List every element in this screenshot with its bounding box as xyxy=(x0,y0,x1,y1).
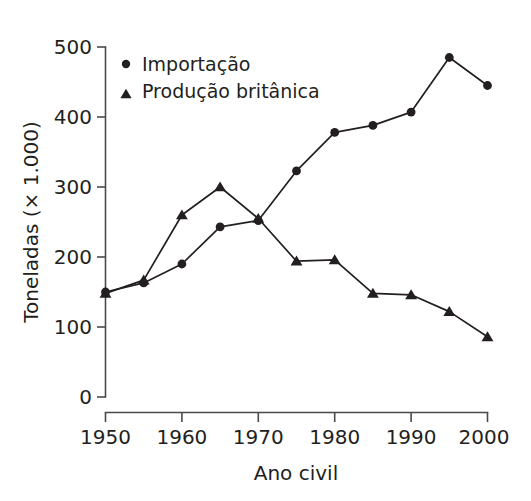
x-axis-ticks: 1950 1960 1970 1980 1990 2000 xyxy=(80,413,509,450)
data-point xyxy=(292,167,301,176)
y-axis-ticks: 500 400 300 200 100 0 xyxy=(54,35,106,409)
data-point xyxy=(330,128,339,137)
y-tick-label-0: 0 xyxy=(79,385,92,409)
data-point xyxy=(369,121,378,130)
x-tick-label-2000: 2000 xyxy=(459,425,510,449)
chart-legend: Importação Produção britânica xyxy=(120,53,319,102)
y-tick-label-100: 100 xyxy=(54,315,92,339)
data-point xyxy=(138,275,150,285)
x-tick-label-1980: 1980 xyxy=(309,425,360,449)
series-markers-producao-britanica xyxy=(100,181,494,341)
legend-label-importacao: Importação xyxy=(142,53,250,75)
y-axis-title: Toneladas (× 1.000) xyxy=(19,121,43,324)
y-tick-label-400: 400 xyxy=(54,105,92,129)
line-chart: 500 400 300 200 100 0 1950 1960 1970 198… xyxy=(0,0,531,501)
data-point xyxy=(216,223,225,232)
x-tick-label-1960: 1960 xyxy=(156,425,207,449)
data-point xyxy=(178,260,187,269)
x-axis-title: Ano civil xyxy=(254,461,338,485)
data-point xyxy=(176,209,188,219)
data-point xyxy=(483,81,492,90)
x-tick-label-1990: 1990 xyxy=(386,425,437,449)
data-point xyxy=(445,53,454,62)
y-tick-label-300: 300 xyxy=(54,175,92,199)
x-tick-label-1970: 1970 xyxy=(233,425,284,449)
y-tick-label-500: 500 xyxy=(54,35,92,59)
legend-triangle-icon xyxy=(120,89,131,98)
y-tick-label-200: 200 xyxy=(54,245,92,269)
legend-circle-icon xyxy=(122,60,130,68)
data-point xyxy=(407,108,416,117)
x-tick-label-1950: 1950 xyxy=(80,425,131,449)
data-point xyxy=(443,306,455,316)
data-point xyxy=(214,181,226,191)
data-point xyxy=(482,331,494,341)
legend-label-producao-britanica: Produção britânica xyxy=(142,80,320,102)
